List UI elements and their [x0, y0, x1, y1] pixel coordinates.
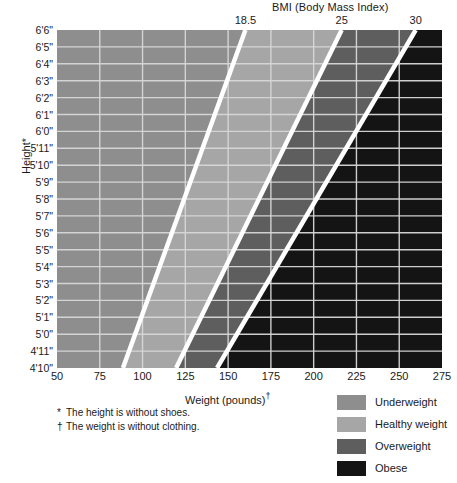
legend-swatch [337, 461, 366, 476]
legend-label: Healthy weight [375, 418, 447, 430]
legend-swatch [337, 439, 366, 454]
y-axis-tick: 6'4" [1, 58, 53, 70]
bmi-tick-18.5: 18.5 [235, 14, 256, 26]
y-axis-tick: 5'6" [1, 227, 53, 239]
x-axis-label: Weight (pounds)† [185, 391, 271, 406]
y-axis-tick: 6'2" [1, 92, 53, 104]
y-axis-tick: 5'3" [1, 278, 53, 290]
y-axis-tick: 5'11" [1, 142, 53, 154]
y-axis-tick: 6'1" [1, 109, 53, 121]
x-axis-tick: 75 [94, 370, 106, 382]
y-axis-tick: 5'1" [1, 311, 53, 323]
bmi-plot-svg [57, 30, 442, 368]
x-axis-label-dagger: † [266, 391, 271, 401]
legend-item: Healthy weight [337, 413, 455, 435]
y-axis-tick: 5'4" [1, 261, 53, 273]
legend: UnderweightHealthy weightOverweightObese [337, 391, 455, 479]
y-axis-tick: 4'11" [1, 345, 53, 357]
x-axis-tick: 50 [51, 370, 63, 382]
footnote-mark: * [57, 406, 66, 420]
footnotes: *The height is without shoes.†The weight… [57, 406, 199, 433]
footnote: *The height is without shoes. [57, 406, 199, 420]
y-axis-tick: 5'9" [1, 176, 53, 188]
bmi-tick-25: 25 [336, 14, 348, 26]
footnote: †The weight is without clothing. [57, 420, 199, 434]
y-axis-tick: 5'10" [1, 159, 53, 171]
y-axis-tick: 6'0" [1, 125, 53, 137]
legend-item: Overweight [337, 435, 455, 457]
bmi-plot-area [57, 30, 442, 368]
y-axis-tick-labels: 6'6"6'5"6'4"6'3"6'2"6'1"6'0"5'11"5'10"5'… [0, 30, 53, 368]
x-axis-label-text: Weight (pounds) [185, 394, 266, 406]
y-axis-tick: 5'5" [1, 244, 53, 256]
legend-swatch [337, 417, 366, 432]
y-axis-tick: 5'0" [1, 328, 53, 340]
x-axis-tick: 125 [176, 370, 194, 382]
x-axis-tick: 200 [304, 370, 322, 382]
legend-item: Underweight [337, 391, 455, 413]
y-axis-tick: 6'5" [1, 41, 53, 53]
y-axis-tick: 5'2" [1, 294, 53, 306]
legend-label: Underweight [375, 396, 437, 408]
footnote-text: The weight is without clothing. [66, 421, 199, 432]
legend-label: Obese [375, 462, 407, 474]
bmi-tick-30: 30 [410, 14, 422, 26]
x-axis-tick: 175 [262, 370, 280, 382]
x-axis-tick: 275 [433, 370, 451, 382]
y-axis-tick: 4'10" [1, 362, 53, 374]
x-axis-tick-labels: 5075100125150175200225250275 [57, 370, 442, 386]
x-axis-tick: 150 [219, 370, 237, 382]
legend-label: Overweight [375, 440, 431, 452]
legend-swatch [337, 395, 366, 410]
x-axis-tick: 100 [133, 370, 151, 382]
footnote-mark: † [57, 420, 66, 434]
chart-title: BMI (Body Mass Index) [272, 1, 388, 13]
y-axis-tick: 5'8" [1, 193, 53, 205]
footnote-text: The height is without shoes. [66, 407, 190, 418]
y-axis-tick: 6'6" [1, 24, 53, 36]
y-axis-tick: 5'7" [1, 210, 53, 222]
legend-item: Obese [337, 457, 455, 479]
x-axis-tick: 250 [390, 370, 408, 382]
x-axis-tick: 225 [347, 370, 365, 382]
y-axis-tick: 6'3" [1, 75, 53, 87]
